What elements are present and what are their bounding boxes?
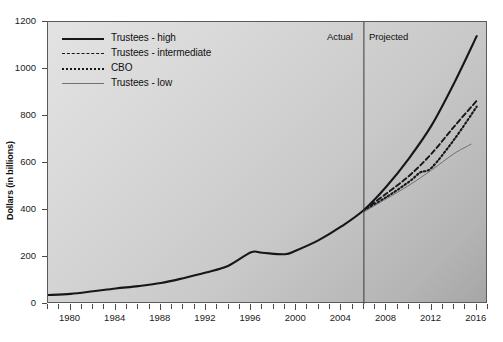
x-tick-mark: [340, 304, 341, 310]
y-tick-label: 600: [2, 157, 36, 167]
x-tick-mark: [228, 304, 229, 309]
x-tick-mark: [453, 304, 454, 309]
x-tick-mark: [363, 304, 364, 309]
x-tick-mark: [284, 304, 285, 309]
x-tick-mark: [160, 304, 161, 310]
x-tick-label: 1980: [50, 312, 90, 323]
x-tick-mark: [47, 304, 48, 309]
y-tick-label: 200: [2, 251, 36, 261]
x-tick-mark: [216, 304, 217, 309]
x-tick-mark: [261, 304, 262, 309]
series-line: [364, 107, 477, 211]
x-tick-mark: [397, 304, 398, 309]
legend-item-label: Trustees - intermediate: [111, 47, 211, 58]
x-tick-mark: [318, 304, 319, 309]
x-tick-label: 2004: [320, 312, 360, 323]
legend-swatch-icon: [62, 63, 104, 73]
x-tick-mark: [115, 304, 116, 310]
x-tick-mark: [295, 304, 296, 310]
legend-item[interactable]: Trustees - intermediate: [62, 45, 211, 60]
y-tick-label: 800: [2, 110, 36, 120]
legend-item-label: Trustees - high: [111, 32, 176, 43]
y-tick-label: 1200: [2, 16, 36, 26]
x-tick-mark: [149, 304, 150, 309]
y-tick-label: 400: [2, 204, 36, 214]
x-tick-mark: [205, 304, 206, 310]
legend-item-label: CBO: [111, 62, 132, 73]
x-tick-mark: [306, 304, 307, 309]
actual-region-label: Actual: [327, 31, 353, 42]
x-tick-mark: [273, 304, 274, 309]
x-tick-label: 2012: [411, 312, 451, 323]
x-tick-mark: [385, 304, 386, 310]
legend-item-label: Trustees - low: [111, 77, 172, 88]
plot-area: Actual Projected Trustees - highTrustees…: [47, 21, 487, 303]
x-tick-mark: [442, 304, 443, 309]
x-tick-mark: [126, 304, 127, 309]
x-tick-mark: [408, 304, 409, 309]
x-tick-mark: [70, 304, 71, 310]
x-tick-mark: [419, 304, 420, 309]
x-tick-mark: [58, 304, 59, 309]
x-tick-mark: [137, 304, 138, 309]
x-tick-mark: [374, 304, 375, 309]
legend-swatch-icon: [62, 33, 104, 43]
x-tick-mark: [487, 304, 488, 309]
x-tick-mark: [81, 304, 82, 309]
x-tick-mark: [182, 304, 183, 309]
x-tick-mark: [464, 304, 465, 309]
x-tick-label: 2000: [275, 312, 315, 323]
x-tick-mark: [431, 304, 432, 310]
x-tick-mark: [329, 304, 330, 309]
x-tick-label: 1988: [140, 312, 180, 323]
x-tick-mark: [250, 304, 251, 310]
y-tick-label: 1000: [2, 63, 36, 73]
legend-item[interactable]: CBO: [62, 60, 211, 75]
projected-region-label: Projected: [369, 31, 408, 42]
chart-legend: Trustees - highTrustees - intermediateCB…: [62, 30, 211, 90]
x-tick-mark: [194, 304, 195, 309]
legend-item[interactable]: Trustees - low: [62, 75, 211, 90]
chart-figure: Dollars (in billions) 020040060080010001…: [0, 0, 503, 342]
legend-swatch-icon: [62, 78, 104, 88]
x-tick-label: 1992: [185, 312, 225, 323]
x-tick-label: 1984: [95, 312, 135, 323]
legend-item[interactable]: Trustees - high: [62, 30, 211, 45]
x-tick-label: 2016: [456, 312, 496, 323]
y-tick-label: 0: [2, 298, 36, 308]
x-tick-label: 2008: [365, 312, 405, 323]
x-tick-mark: [171, 304, 172, 309]
x-tick-mark: [476, 304, 477, 310]
x-tick-label: 1996: [230, 312, 270, 323]
x-tick-mark: [103, 304, 104, 309]
x-tick-mark: [352, 304, 353, 309]
legend-swatch-icon: [62, 48, 104, 58]
x-tick-mark: [239, 304, 240, 309]
x-tick-mark: [92, 304, 93, 309]
